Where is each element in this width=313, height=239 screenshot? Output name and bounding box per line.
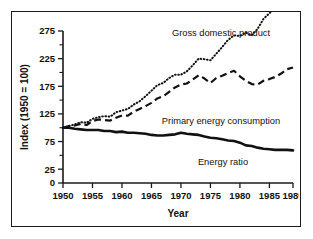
x-tick-label: 1950 xyxy=(52,190,73,201)
y-tick-label: 0 xyxy=(50,177,55,188)
y-tick-label: 275 xyxy=(39,25,56,36)
series-annotation: Primary energy consumption xyxy=(162,116,280,126)
figure-container: 02575125175225275 1950195519601965197019… xyxy=(0,0,313,239)
series-line-solid xyxy=(63,128,293,151)
x-axis-tick-labels: 195019551960196519701975198019851989 xyxy=(52,190,299,201)
y-tick-label: 125 xyxy=(39,108,56,119)
figure-border: 02575125175225275 1950195519601965197019… xyxy=(11,11,301,227)
y-tick-label: 175 xyxy=(39,81,56,92)
x-tick-label: 1955 xyxy=(82,190,104,201)
y-tick-label: 25 xyxy=(44,164,55,175)
x-tick-label: 1985 xyxy=(259,190,281,201)
x-tick-label: 1970 xyxy=(170,190,191,201)
y-tick-label: 75 xyxy=(44,136,55,147)
x-tick-label: 1975 xyxy=(200,190,222,201)
series-annotation: Gross domestic product xyxy=(172,28,271,38)
y-axis-tick-labels: 02575125175225275 xyxy=(39,25,56,188)
x-tick-label: 1989 xyxy=(282,190,299,201)
line-chart: 02575125175225275 1950195519601965197019… xyxy=(12,12,299,225)
y-tick-label: 225 xyxy=(39,53,56,64)
x-tick-label: 1980 xyxy=(229,190,250,201)
x-tick-label: 1960 xyxy=(111,190,132,201)
x-axis-title: Year xyxy=(167,208,188,219)
series-annotation: Energy ratio xyxy=(198,157,248,167)
y-axis-title: Index (1950 = 100) xyxy=(19,64,30,150)
x-tick-label: 1965 xyxy=(141,190,163,201)
